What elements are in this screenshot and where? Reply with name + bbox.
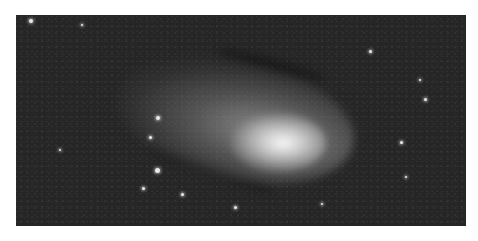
star [142, 187, 145, 190]
star [81, 24, 83, 26]
star [369, 50, 372, 53]
star [419, 79, 421, 81]
star [59, 149, 61, 151]
star [156, 116, 160, 120]
star [155, 168, 160, 173]
star [234, 206, 237, 209]
comet-photo [16, 15, 466, 226]
star [181, 193, 184, 196]
star [424, 98, 427, 101]
star [149, 136, 152, 139]
star [29, 19, 33, 23]
star [400, 141, 403, 144]
comet-nucleus [231, 113, 326, 173]
